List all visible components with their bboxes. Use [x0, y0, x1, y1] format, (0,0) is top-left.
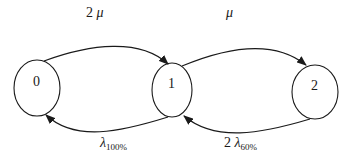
transition-1-2-label: μ: [226, 6, 233, 20]
state-diagram: 0 1 2 2 μ μ λ100% 2 λ60%: [0, 0, 352, 158]
lambda-subscript: 100%: [106, 142, 127, 152]
transition-2-1-label: 2 λ60%: [224, 136, 257, 152]
mu-symbol: μ: [97, 5, 104, 20]
arrow-1-to-0: [46, 115, 168, 132]
transition-0-1-label: 2 μ: [86, 6, 104, 20]
state-0-label: 0: [33, 75, 40, 89]
state-0-text: 0: [33, 74, 40, 89]
arrow-0-to-1: [44, 46, 168, 64]
transition-1-0-label: λ100%: [100, 136, 127, 152]
lambda-subscript: 60%: [241, 142, 258, 152]
state-1-label: 1: [168, 77, 175, 91]
state-2-label: 2: [311, 79, 318, 93]
arrow-1-to-2: [182, 49, 306, 66]
rate-coefficient: 2: [224, 135, 231, 150]
mu-symbol: μ: [226, 5, 233, 20]
arrow-2-to-1: [184, 116, 310, 133]
state-2-text: 2: [311, 78, 318, 93]
diagram-svg: [0, 0, 352, 158]
state-1-text: 1: [168, 76, 175, 91]
rate-coefficient: 2: [86, 5, 93, 20]
